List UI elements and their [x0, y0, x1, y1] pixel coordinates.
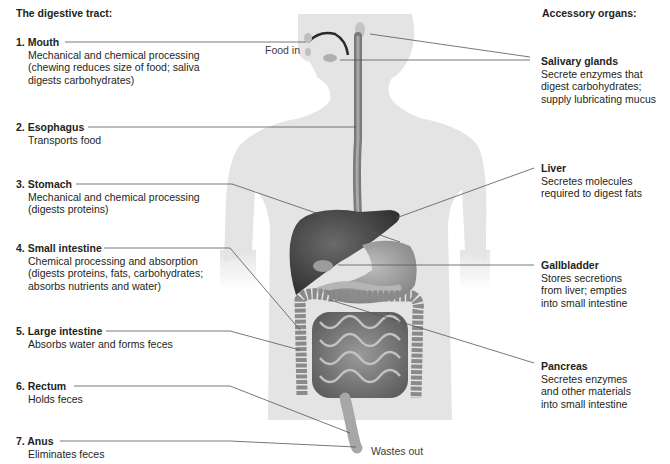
label-description: Mechanical and chemical processing (dige…	[16, 191, 200, 216]
label-gallbladder: Gallbladder Stores secretions from liver…	[541, 259, 627, 309]
label-title: 7. Anus	[16, 435, 104, 448]
label-small-intestine: 4. Small intestine Chemical processing a…	[16, 242, 203, 292]
digestive-tract-heading: The digestive tract:	[16, 7, 112, 19]
label-description: Holds feces	[16, 393, 83, 406]
gallbladder-organ	[313, 260, 333, 272]
label-title: 3. Stomach	[16, 178, 200, 191]
label-large-intestine: 5. Large intestine Absorbs water and for…	[16, 325, 173, 350]
label-stomach: 3. Stomach Mechanical and chemical proce…	[16, 178, 200, 216]
label-title: Liver	[541, 162, 642, 175]
small-intestine-organ	[312, 312, 408, 398]
label-title: 4. Small intestine	[16, 242, 203, 255]
label-mouth: 1. Mouth Mechanical and chemical process…	[16, 36, 200, 86]
label-title: Salivary glands	[541, 55, 656, 68]
wastes-out-annotation: Wastes out	[371, 445, 423, 457]
label-description: Absorbs water and forms feces	[16, 338, 173, 351]
digestive-system-diagram: The digestive tract: Accessory organs: 1…	[0, 0, 670, 464]
label-salivary-glands: Salivary glands Secrete enzymes that dig…	[541, 55, 656, 105]
label-pancreas: Pancreas Secretes enzymes and other mate…	[541, 360, 631, 410]
label-anus: 7. Anus Eliminates feces	[16, 435, 104, 460]
label-description: Secretes molecules required to digest fa…	[541, 175, 642, 200]
label-title: 1. Mouth	[16, 36, 200, 49]
label-title: 2. Esophagus	[16, 121, 101, 134]
label-description: Mechanical and chemical processing (chew…	[16, 49, 200, 87]
label-description: Secretes enzymes and other materials int…	[541, 373, 631, 411]
accessory-organs-heading: Accessory organs:	[542, 7, 637, 19]
label-liver: Liver Secretes molecules required to dig…	[541, 162, 642, 200]
label-rectum: 6. Rectum Holds feces	[16, 380, 83, 405]
label-description: Chemical processing and absorption (dige…	[16, 255, 203, 293]
label-title: Pancreas	[541, 360, 631, 373]
label-title: 5. Large intestine	[16, 325, 173, 338]
food-in-annotation: Food in	[265, 44, 300, 56]
label-title: 6. Rectum	[16, 380, 83, 393]
label-description: Eliminates feces	[16, 448, 104, 461]
label-description: Transports food	[16, 134, 101, 147]
label-esophagus: 2. Esophagus Transports food	[16, 121, 101, 146]
label-description: Secrete enzymes that digest carbohydrate…	[541, 68, 656, 106]
label-description: Stores secretions from liver; empties in…	[541, 272, 627, 310]
label-title: Gallbladder	[541, 259, 627, 272]
